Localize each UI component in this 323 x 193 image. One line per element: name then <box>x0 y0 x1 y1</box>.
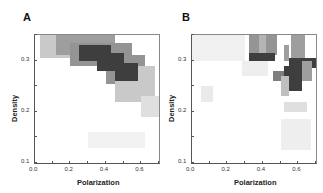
x-tick <box>297 161 298 163</box>
y-tick <box>35 85 37 86</box>
x-tick <box>226 161 227 163</box>
heatmap-cell <box>141 96 159 116</box>
heatmap-cell <box>259 35 266 53</box>
x-tick <box>244 161 245 163</box>
heatmap-cell <box>302 61 313 81</box>
y-tick-label: 0.2 <box>178 107 186 113</box>
x-tick <box>52 161 53 163</box>
x-tick <box>69 161 70 163</box>
y-tick <box>35 111 37 112</box>
x-tick <box>140 161 141 163</box>
y-tick <box>35 34 37 35</box>
x-tick-label: 0.0 <box>29 166 37 172</box>
panel-a-x-axis-label: Polarization <box>77 178 120 187</box>
x-tick-label: 0.4 <box>257 166 265 172</box>
heatmap-cell <box>249 53 276 61</box>
y-tick <box>35 60 37 61</box>
y-tick <box>35 136 37 137</box>
y-tick <box>192 85 194 86</box>
x-tick-label: 0.2 <box>64 166 72 172</box>
panel-b-plot-area <box>191 34 317 164</box>
heatmap-cell <box>284 102 307 112</box>
x-tick <box>262 161 263 163</box>
y-tick-label: 0.1 <box>21 158 29 164</box>
y-tick-label: 0.2 <box>21 107 29 113</box>
x-tick-label: 0.6 <box>292 166 300 172</box>
x-tick <box>105 161 106 163</box>
y-tick <box>192 136 194 137</box>
heatmap-cell <box>115 63 138 81</box>
panel-a-y-axis-label: Density <box>10 95 19 122</box>
x-tick <box>209 161 210 163</box>
panel-b-x-axis-label: Polarization <box>234 178 277 187</box>
heatmap-cell <box>192 35 245 61</box>
y-tick-label: 0.3 <box>178 56 186 62</box>
x-tick-label: 0.6 <box>135 166 143 172</box>
heatmap-cell <box>281 119 311 150</box>
x-tick <box>158 161 159 163</box>
panel-b-y-axis-label: Density <box>167 95 176 122</box>
y-tick <box>192 34 194 35</box>
y-tick <box>192 60 194 61</box>
y-tick-label: 0.1 <box>178 158 186 164</box>
x-tick-label: 0.2 <box>221 166 229 172</box>
x-tick <box>315 161 316 163</box>
x-tick <box>123 161 124 163</box>
heatmap-cell <box>88 132 145 147</box>
y-tick <box>192 162 194 163</box>
y-tick-label: 0.3 <box>21 56 29 62</box>
heatmap-cell <box>242 61 269 76</box>
y-tick <box>35 162 37 163</box>
y-tick <box>192 111 194 112</box>
heatmap-cell <box>201 86 213 101</box>
x-tick <box>87 161 88 163</box>
heatmap-cell <box>281 76 290 96</box>
panel-a-plot-area <box>34 34 160 164</box>
panel-b-label: B <box>182 11 190 23</box>
panel-a-label: A <box>23 11 31 23</box>
x-tick <box>280 161 281 163</box>
x-tick-label: 0.4 <box>100 166 108 172</box>
x-tick-label: 0.0 <box>186 166 194 172</box>
